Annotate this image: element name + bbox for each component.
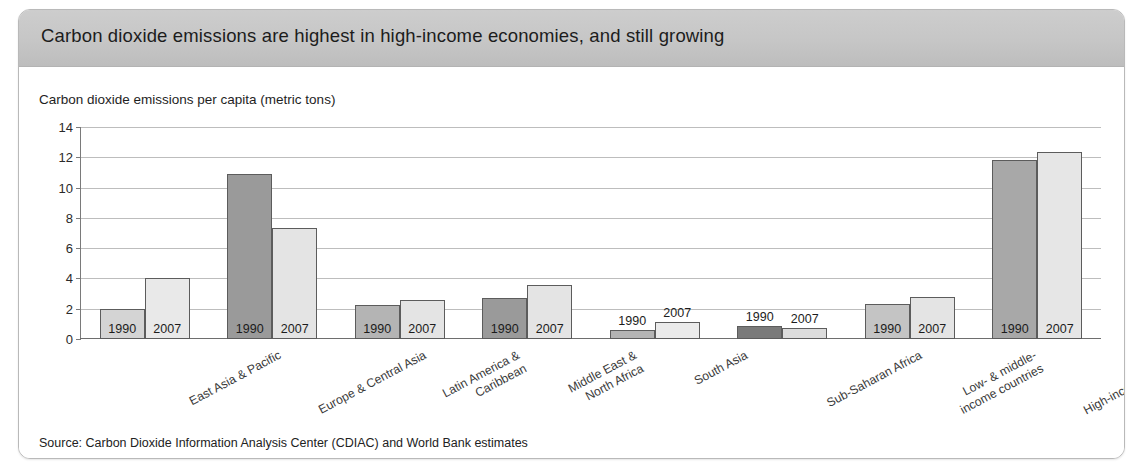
bar-group: 19902007 (591, 127, 719, 339)
bar-2007[interactable]: 2007 (1037, 152, 1082, 339)
x-tick-label: Low- & middle- income countries (951, 348, 1046, 418)
chart-header-band: Carbon dioxide emissions are highest in … (19, 10, 1124, 67)
bar-value-label: 2007 (656, 306, 699, 320)
y-tick-label: 14 (59, 120, 73, 135)
bar-2007[interactable]: 2007 (655, 322, 700, 339)
x-tick-label: Europe & Central Asia (316, 348, 429, 417)
y-tick-label: 0 (66, 332, 73, 347)
bar-value-label: 2007 (783, 312, 826, 326)
y-tick-label: 6 (66, 241, 73, 256)
bar-group: 19902007 (336, 127, 464, 339)
bar-1990[interactable]: 1990 (227, 174, 272, 339)
bar-value-label: 1990 (993, 322, 1036, 336)
bar-group: 19902007 (719, 127, 847, 339)
y-tick-label: 2 (66, 301, 73, 316)
plot-area: 02468101214 1990200719902007199020071990… (81, 127, 1101, 339)
x-tick-label: East Asia & Pacific (187, 348, 284, 409)
bar-1990[interactable]: 1990 (737, 326, 782, 339)
bar-value-label: 1990 (483, 322, 526, 336)
y-tick-label: 10 (59, 180, 73, 195)
bar-2007[interactable]: 2007 (910, 297, 955, 339)
bar-1990[interactable]: 1990 (482, 298, 527, 339)
bar-value-label: 1990 (101, 322, 144, 336)
bar-value-label: 1990 (738, 310, 781, 324)
y-tick-label: 8 (66, 210, 73, 225)
bar-group: 19902007 (209, 127, 337, 339)
y-tick-mark (76, 339, 81, 340)
source-note: Source: Carbon Dioxide Information Analy… (39, 436, 528, 450)
bar-value-label: 1990 (611, 314, 654, 328)
bar-value-label: 1990 (356, 322, 399, 336)
bar-value-label: 2007 (1038, 322, 1081, 336)
y-tick-label: 12 (59, 150, 73, 165)
x-tick-label: Middle East & North Africa (566, 348, 646, 410)
bar-2007[interactable]: 2007 (272, 228, 317, 339)
bar-value-label: 2007 (273, 322, 316, 336)
bar-value-label: 1990 (866, 322, 909, 336)
y-tick-label: 4 (66, 271, 73, 286)
bar-2007[interactable]: 2007 (527, 285, 572, 340)
bar-2007[interactable]: 2007 (782, 328, 827, 339)
chart-body: Carbon dioxide emissions per capita (met… (19, 67, 1124, 459)
bar-group: 19902007 (974, 127, 1102, 339)
x-tick-label: South Asia (692, 348, 750, 388)
chart-title: Carbon dioxide emissions are highest in … (41, 25, 725, 47)
chart-figure-card: Carbon dioxide emissions are highest in … (18, 9, 1125, 459)
bar-1990[interactable]: 1990 (100, 309, 145, 339)
chart-axis-title: Carbon dioxide emissions per capita (met… (39, 92, 335, 107)
bar-group: 19902007 (846, 127, 974, 339)
bar-1990[interactable]: 1990 (865, 304, 910, 339)
bar-value-label: 2007 (401, 322, 444, 336)
bar-1990[interactable]: 1990 (355, 305, 400, 339)
bar-value-label: 2007 (146, 322, 189, 336)
bar-value-label: 1990 (228, 322, 271, 336)
x-tick-label: Sub-Saharan Africa (825, 348, 925, 411)
bar-group: 19902007 (81, 127, 209, 339)
bar-1990[interactable]: 1990 (992, 160, 1037, 339)
bar-value-label: 2007 (528, 322, 571, 336)
x-tick-label: High-income countries (1081, 348, 1125, 418)
bar-value-label: 2007 (911, 322, 954, 336)
bar-2007[interactable]: 2007 (400, 300, 445, 339)
bar-group: 19902007 (464, 127, 592, 339)
bar-2007[interactable]: 2007 (145, 278, 190, 339)
x-tick-label: Latin America & Caribbean (440, 348, 529, 414)
bar-1990[interactable]: 1990 (610, 330, 655, 339)
